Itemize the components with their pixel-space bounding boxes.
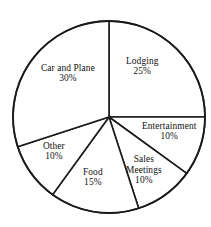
pie-label-name: Sales (126, 154, 162, 165)
pie-label-other: Other10% (43, 141, 65, 162)
pie-label-name: Meetings (126, 165, 162, 176)
pie-label-name: Food (83, 167, 103, 178)
pie-label-car-and-plane: Car and Plane30% (41, 63, 95, 84)
pie-label-entertainment: Entertainment10% (142, 121, 196, 142)
pie-label-name: Lodging (126, 56, 158, 67)
pie-label-value: 10% (126, 175, 162, 186)
pie-label-lodging: Lodging25% (126, 56, 158, 77)
pie-slice-group (13, 21, 205, 213)
pie-label-sales-meetings: SalesMeetings10% (126, 154, 162, 186)
pie-label-value: 25% (126, 66, 158, 77)
pie-label-value: 10% (142, 131, 196, 142)
pie-label-name: Other (43, 141, 65, 152)
pie-chart: Lodging25%Entertainment10%SalesMeetings1… (0, 0, 211, 227)
pie-label-value: 30% (41, 73, 95, 84)
pie-chart-svg (0, 0, 211, 227)
pie-label-food: Food15% (83, 167, 103, 188)
pie-label-value: 15% (83, 177, 103, 188)
pie-label-name: Car and Plane (41, 63, 95, 74)
pie-label-name: Entertainment (142, 121, 196, 132)
pie-label-value: 10% (43, 151, 65, 162)
